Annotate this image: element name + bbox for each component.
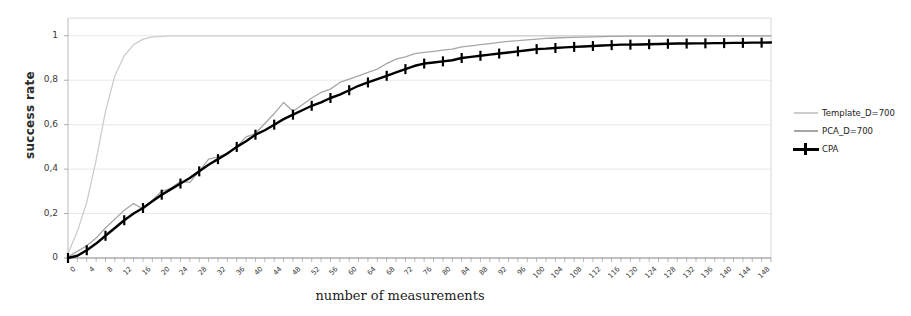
legend-label-template: Template_D=700 bbox=[822, 108, 895, 118]
series-line bbox=[68, 42, 771, 258]
plot-area bbox=[0, 0, 911, 316]
legend-label-cpa: CPA bbox=[822, 144, 838, 154]
chart-legend: Template_D=700 PCA_D=700 CPA bbox=[793, 105, 908, 159]
series-line bbox=[68, 36, 771, 254]
chart-figure: success rate number of measurements 00,2… bbox=[0, 0, 911, 316]
legend-item-pca: PCA_D=700 bbox=[793, 123, 908, 139]
legend-item-cpa: CPA bbox=[793, 141, 908, 157]
legend-line-pca-icon bbox=[793, 124, 819, 138]
legend-label-pca: PCA_D=700 bbox=[822, 126, 873, 136]
legend-line-template-icon bbox=[793, 106, 819, 120]
legend-item-template: Template_D=700 bbox=[793, 105, 908, 121]
series-line bbox=[68, 36, 771, 257]
legend-line-cpa-icon bbox=[793, 142, 819, 156]
